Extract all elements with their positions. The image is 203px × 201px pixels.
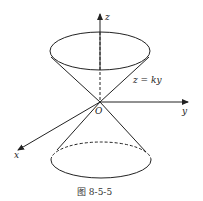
lower-cone-right-edge (100, 102, 146, 152)
lower-ellipse-front (51, 160, 151, 178)
z-axis-label: z (104, 12, 110, 22)
figure-caption: 图 8-5-5 (77, 187, 112, 197)
lower-cone-left-edge (57, 102, 100, 150)
y-axis-label: y (181, 106, 188, 116)
upper-cone-left-edge (51, 57, 100, 102)
surface-equation-label: z = ky (132, 75, 162, 85)
x-axis-label: x (14, 150, 19, 160)
origin-label: O (95, 106, 103, 116)
lower-ellipse-back (51, 142, 151, 160)
cone-diagram: z y x O z = ky 图 8-5-5 (0, 0, 203, 201)
